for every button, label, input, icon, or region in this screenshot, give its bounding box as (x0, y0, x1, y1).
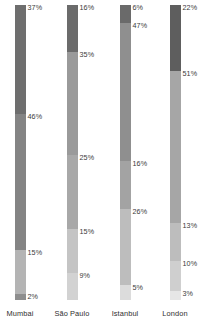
segment-value-label: 15% (28, 249, 43, 257)
bar-segment[interactable]: 51% (170, 71, 181, 223)
bar-segment[interactable]: 22% (170, 5, 181, 71)
bar-segment[interactable]: 15% (15, 250, 26, 294)
segment-value-label: 22% (183, 4, 198, 12)
segment-value-label: 51% (183, 70, 198, 78)
segment-value-label: 10% (183, 260, 198, 268)
stacked-bar-chart: 37%46%15%2%Mumbai16%35%25%15%9%São Paulo… (0, 0, 209, 326)
segment-value-label: 35% (80, 51, 95, 59)
segment-value-label: 2% (28, 293, 39, 301)
category-label-london: London (135, 309, 209, 318)
segment-value-label: 16% (80, 4, 95, 12)
stacked-bar[interactable]: 16%35%25%15%9% (67, 5, 78, 300)
segment-value-label: 46% (28, 113, 43, 121)
segment-value-label: 47% (133, 22, 148, 30)
bar-segment[interactable]: 5% (120, 285, 131, 300)
stacked-bar[interactable]: 6%47%16%26%5% (120, 5, 131, 300)
segment-value-label: 25% (80, 154, 95, 162)
bar-segment[interactable]: 25% (67, 155, 78, 229)
bar-segment[interactable]: 26% (120, 209, 131, 286)
segment-value-label: 9% (80, 272, 91, 280)
segment-value-label: 3% (183, 290, 194, 298)
stacked-bar[interactable]: 37%46%15%2% (15, 5, 26, 300)
bar-segment[interactable]: 37% (15, 5, 26, 114)
bar-segment[interactable]: 3% (170, 291, 181, 300)
bar-segment[interactable]: 16% (120, 161, 131, 208)
bar-segment[interactable]: 9% (67, 273, 78, 300)
bar-segment[interactable]: 15% (67, 229, 78, 273)
bar-segment[interactable]: 46% (15, 114, 26, 250)
bar-segment[interactable]: 2% (15, 294, 26, 300)
bar-segment[interactable]: 10% (170, 261, 181, 291)
segment-value-label: 6% (133, 4, 144, 12)
stacked-bar[interactable]: 22%51%13%10%3% (170, 5, 181, 300)
segment-value-label: 15% (80, 228, 95, 236)
segment-value-label: 13% (183, 222, 198, 230)
bar-segment[interactable]: 47% (120, 23, 131, 162)
segment-value-label: 26% (133, 208, 148, 216)
segment-value-label: 16% (133, 160, 148, 168)
bar-segment[interactable]: 35% (67, 52, 78, 155)
segment-value-label: 37% (28, 4, 43, 12)
segment-value-label: 5% (133, 284, 144, 292)
bar-segment[interactable]: 16% (67, 5, 78, 52)
bar-segment[interactable]: 13% (170, 223, 181, 262)
bar-segment[interactable]: 6% (120, 5, 131, 23)
